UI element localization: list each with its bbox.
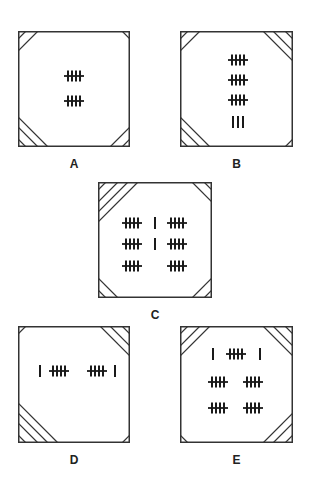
tally-group-five <box>64 71 84 82</box>
tally-group-five <box>226 349 246 360</box>
panel-label: A <box>54 157 94 171</box>
corner-stripes-bl <box>180 117 210 147</box>
tally-group-five <box>122 218 142 229</box>
panel-c <box>98 182 212 298</box>
tally-group-five <box>228 75 248 86</box>
box-border <box>19 327 130 443</box>
panel-e <box>180 326 293 443</box>
corner-stripes-bl <box>18 117 48 147</box>
tally-group-five <box>87 366 107 377</box>
corner-stripes-bl <box>98 278 118 298</box>
corner-stripes-bl <box>18 403 58 443</box>
corner-stripes-tl <box>18 31 38 51</box>
corner-stripes-tl <box>180 326 210 356</box>
tally-group-five <box>167 261 187 272</box>
panel-label: C <box>135 308 175 322</box>
box-border <box>19 32 130 147</box>
tally-group-five <box>49 366 69 377</box>
panel-label: E <box>217 453 257 467</box>
tally-group-five <box>228 95 248 106</box>
panel-box <box>180 31 293 147</box>
corner-stripes-tr <box>192 182 212 202</box>
tally-group-five <box>167 218 187 229</box>
panel-a <box>18 31 130 147</box>
tally-group-five <box>122 261 142 272</box>
tally-group-five <box>228 55 248 66</box>
corner-stripes-tl <box>180 31 200 51</box>
corner-stripes-br <box>263 413 293 443</box>
tally-group-five <box>243 377 263 388</box>
corner-stripes-tr <box>263 326 293 356</box>
corner-stripes-br <box>192 278 212 298</box>
tally-group-five <box>208 377 228 388</box>
corner-stripes-br <box>110 127 130 147</box>
tally-group-five <box>122 239 142 250</box>
tally-group-five <box>208 403 228 414</box>
corner-stripes-tr <box>100 326 130 356</box>
panel-label: B <box>217 157 257 171</box>
panel-box <box>18 31 130 147</box>
corner-stripes-tr <box>263 31 293 61</box>
tally-group-five <box>167 239 187 250</box>
panel-box <box>18 326 130 443</box>
panel-b <box>180 31 293 147</box>
panel-label: D <box>54 453 94 467</box>
tally-group-five <box>64 96 84 107</box>
box-border <box>181 327 293 443</box>
panel-d <box>18 326 130 443</box>
panel-box <box>98 182 212 298</box>
box-border <box>181 32 293 147</box>
tally-group-five <box>243 403 263 414</box>
corner-stripes-tl <box>98 182 138 222</box>
panel-box <box>180 326 293 443</box>
